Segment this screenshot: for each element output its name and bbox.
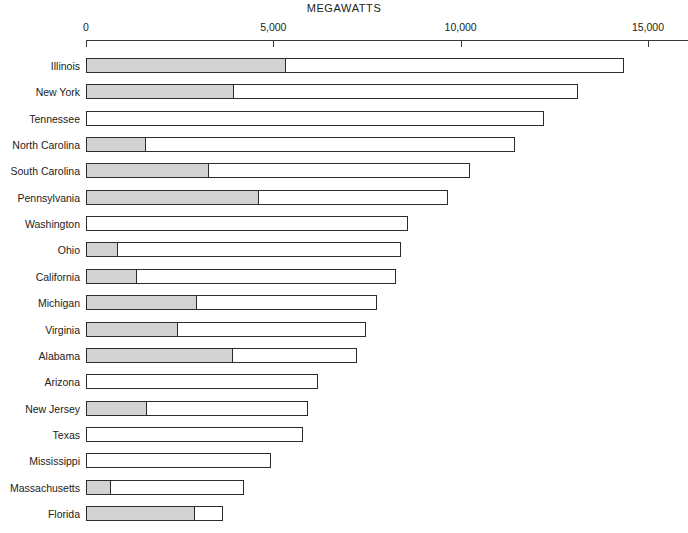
bar-shaded-segment [87,349,233,362]
bar-row: Texas [0,427,688,443]
bar-row: Alabama [0,348,688,364]
bar-row: California [0,269,688,285]
bar-row: South Carolina [0,163,688,179]
bar-row: Virginia [0,322,688,338]
bar-total [86,374,318,389]
bar-row: Massachusetts [0,480,688,496]
bar-total [86,269,396,284]
category-label: Florida [48,508,80,520]
bar-total [86,427,303,442]
x-axis-tick-label: 15,000 [632,21,664,33]
bar-shaded-segment [87,296,197,309]
x-axis-tick [648,40,649,47]
category-label: Massachusetts [10,482,80,494]
x-axis-line [86,40,688,41]
bar-shaded-segment [87,507,195,520]
bar-total [86,163,470,178]
bar-total [86,480,244,495]
bar-shaded-segment [87,138,146,151]
bar-total [86,401,308,416]
bar-shaded-segment [87,191,259,204]
x-axis-tick-label: 0 [83,21,89,33]
bar-shaded-segment [87,402,147,415]
chart-title: MEGAWATTS [0,2,688,14]
category-label: Ohio [58,244,80,256]
bar-row: New York [0,84,688,100]
category-label: Illinois [51,60,80,72]
bar-row: Ohio [0,242,688,258]
bar-row: Florida [0,506,688,522]
category-label: Washington [25,218,80,230]
bar-total [86,242,401,257]
bar-total [86,348,357,363]
category-label: Alabama [39,350,80,362]
bar-total [86,190,448,205]
bar-row: Illinois [0,58,688,74]
bar-shaded-segment [87,323,178,336]
bar-row: Mississippi [0,453,688,469]
bar-row: Michigan [0,295,688,311]
bar-total [86,216,408,231]
category-label: Pennsylvania [18,192,80,204]
category-label: South Carolina [11,165,80,177]
bar-shaded-segment [87,270,137,283]
bar-shaded-segment [87,481,111,494]
bar-total [86,58,624,73]
bar-shaded-segment [87,85,234,98]
bar-row: Pennsylvania [0,190,688,206]
category-label: Arizona [44,376,80,388]
category-label: New Jersey [25,403,80,415]
bar-total [86,295,377,310]
bar-row: Washington [0,216,688,232]
bar-shaded-segment [87,243,118,256]
bar-total [86,84,578,99]
bar-total [86,453,271,468]
category-label: Mississippi [29,455,80,467]
category-label: North Carolina [12,139,80,151]
x-axis-tick [86,40,87,47]
bar-row: New Jersey [0,401,688,417]
category-label: Texas [53,429,80,441]
bar-row: Arizona [0,374,688,390]
bar-total [86,506,223,521]
category-label: Michigan [38,297,80,309]
x-axis-tick-label: 5,000 [260,21,286,33]
bar-total [86,322,366,337]
bar-shaded-segment [87,59,286,72]
bar-row: Tennessee [0,111,688,127]
category-label: Virginia [45,324,80,336]
bar-shaded-segment [87,164,209,177]
category-label: California [36,271,80,283]
bar-total [86,111,544,126]
x-axis-tick [273,40,274,47]
category-label: Tennessee [29,113,80,125]
category-label: New York [36,86,80,98]
x-axis-tick-label: 10,000 [445,21,477,33]
x-axis-tick [461,40,462,47]
bar-chart: MEGAWATTS 05,00010,00015,000 IllinoisNew… [0,0,688,533]
bar-row: North Carolina [0,137,688,153]
bar-total [86,137,515,152]
